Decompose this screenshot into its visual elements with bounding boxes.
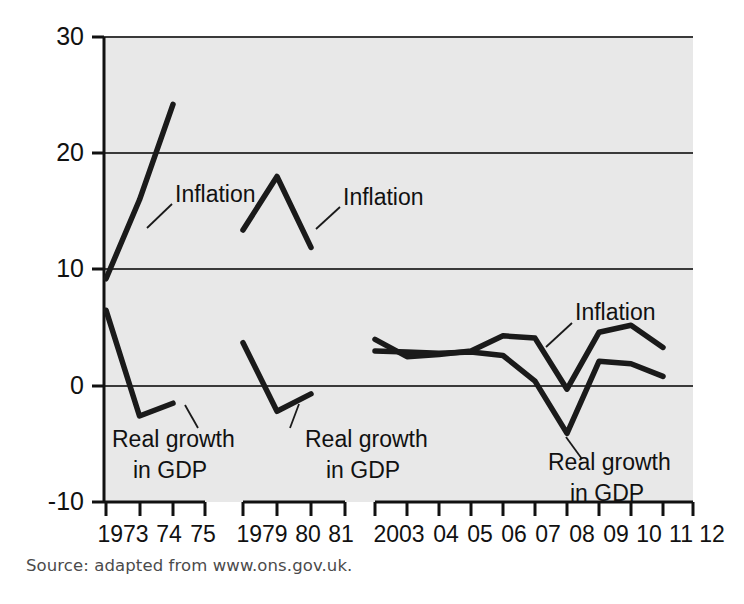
- xtick-label-1979: 1979: [236, 521, 287, 547]
- inflation-gdp-line-chart: 30 20 10 0 -10: [0, 0, 744, 604]
- xtick-label-75: 75: [190, 521, 216, 547]
- xtick-label-08: 08: [569, 521, 595, 547]
- xtick-label-74: 74: [156, 521, 182, 547]
- annotation-gdp-2-line2: in GDP: [326, 457, 400, 483]
- source-note: Source: adapted from www.ons.gov.uk.: [26, 556, 352, 575]
- ytick-label-30: 30: [56, 22, 84, 50]
- xtick-label-1973: 1973: [97, 521, 148, 547]
- xtick-label-80: 80: [295, 521, 321, 547]
- annotation-gdp-3-line1: Real growth: [548, 449, 671, 475]
- xtick-label-10: 10: [636, 521, 662, 547]
- annotation-inflation-3: Inflation: [575, 299, 656, 325]
- annotation-gdp-1-line1: Real growth: [112, 426, 235, 452]
- xtick-label-81: 81: [328, 521, 354, 547]
- xtick-label-09: 09: [603, 521, 629, 547]
- xtick-label-12: 12: [699, 521, 725, 547]
- ytick-label-0: 0: [70, 371, 84, 399]
- ytick-label-10: 10: [56, 254, 84, 282]
- y-axis-ticks: [92, 37, 104, 502]
- xtick-label-06: 06: [501, 521, 527, 547]
- xtick-label-2003: 2003: [373, 521, 424, 547]
- ytick-label-20: 20: [56, 138, 84, 166]
- annotation-inflation-1: Inflation: [175, 181, 256, 207]
- xtick-label-04: 04: [433, 521, 459, 547]
- xtick-label-11: 11: [669, 521, 693, 547]
- xtick-label-07: 07: [535, 521, 561, 547]
- ytick-label--10: -10: [48, 487, 84, 515]
- annotation-gdp-1-line2: in GDP: [133, 457, 207, 483]
- xtick-label-05: 05: [467, 521, 493, 547]
- annotation-inflation-2: Inflation: [343, 184, 424, 210]
- chart-figure: 30 20 10 0 -10: [0, 0, 744, 604]
- annotation-gdp-2-line1: Real growth: [305, 426, 428, 452]
- annotation-gdp-3-line2: in GDP: [570, 480, 644, 506]
